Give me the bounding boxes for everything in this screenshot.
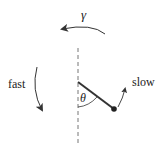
fast-label: fast	[8, 77, 26, 91]
gamma-label: γ	[81, 7, 87, 22]
theta-label: θ	[80, 91, 86, 105]
slow-label: slow	[132, 75, 155, 89]
pendulum-bob	[111, 106, 117, 112]
fast-rotation-arrow	[35, 67, 42, 110]
gamma-rotation-arrow	[62, 27, 105, 34]
slow-rotation-arrow	[118, 89, 125, 107]
pendulum-diagram: γ θ fast slow	[0, 0, 162, 151]
